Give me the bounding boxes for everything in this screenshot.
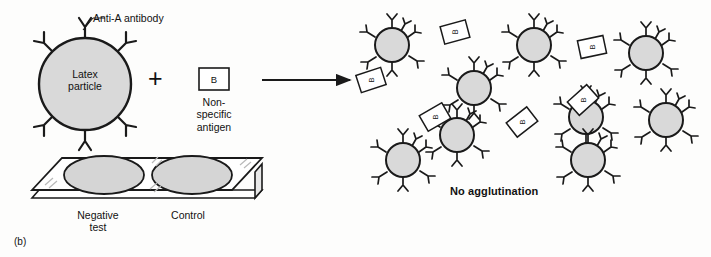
svg-text:B: B xyxy=(518,119,527,124)
antigen-label-line1: Non- xyxy=(203,96,226,108)
latex-particle-label-line2: particle xyxy=(68,80,102,92)
dispersed-antigen: B xyxy=(356,67,386,92)
dispersed-particles-group xyxy=(360,14,698,191)
svg-text:B: B xyxy=(588,44,597,49)
anti-a-antibody-label: Anti-A antibody xyxy=(93,12,164,24)
plus-sign: + xyxy=(148,66,163,91)
antigen-box-letter: B xyxy=(199,74,229,85)
svg-text:B: B xyxy=(579,97,588,102)
negative-test-label: Negativetest xyxy=(58,209,138,234)
dispersed-particle xyxy=(614,22,678,84)
slide-well-control xyxy=(152,156,232,194)
slide-well-negative-test xyxy=(64,156,144,194)
nonspecific-antigen-label: Non-specificantigen xyxy=(184,96,244,133)
antigen-label-line2: specific xyxy=(196,108,231,120)
dispersed-particle xyxy=(634,89,698,151)
svg-text:B: B xyxy=(431,114,440,119)
dispersed-particle xyxy=(360,14,424,76)
svg-text:B: B xyxy=(367,77,376,82)
negative-test-label-line2: test xyxy=(90,221,107,233)
dispersed-antigen: B xyxy=(506,107,538,137)
dispersed-particle xyxy=(556,129,620,191)
glass-slide xyxy=(32,156,262,198)
dispersed-particle xyxy=(442,57,506,119)
antigen-label-line3: antigen xyxy=(197,121,231,133)
dispersed-particle xyxy=(371,129,435,191)
no-agglutination-label: No agglutination xyxy=(450,185,538,198)
dispersed-antigen: B xyxy=(440,20,470,44)
control-label: Control xyxy=(148,209,228,221)
svg-text:B: B xyxy=(451,29,460,35)
dispersed-antigen: B xyxy=(577,35,606,58)
dispersed-particle xyxy=(502,14,566,76)
latex-particle-label-line1: Latex xyxy=(72,68,98,80)
panel-label: (b) xyxy=(14,236,26,248)
slide-right-edge xyxy=(255,164,262,198)
latex-particle-label: Latexparticle xyxy=(45,68,125,93)
figure-panel-b: B B B B B B xyxy=(0,0,711,257)
negative-test-label-line1: Negative xyxy=(77,209,118,221)
slide-front-edge xyxy=(32,190,262,198)
